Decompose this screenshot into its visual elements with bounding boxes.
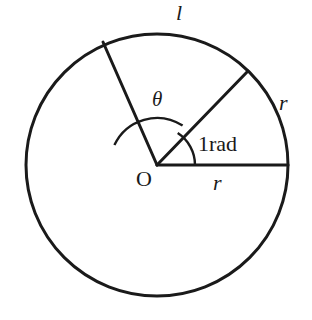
one-radian-angle-arc [178, 133, 195, 165]
origin-label: O [136, 168, 152, 190]
radius-right-label: r [279, 92, 288, 114]
theta-radius-line [103, 42, 157, 165]
radius-bottom-label: r [213, 172, 222, 194]
geometry-figure: l θ r r 1rad O [0, 0, 312, 320]
one-radian-label: 1rad [198, 133, 237, 155]
arc-length-label: l [176, 2, 182, 24]
theta-angle-arc [114, 118, 182, 145]
theta-label: θ [152, 89, 162, 110]
circle-diagram-svg [0, 0, 312, 320]
